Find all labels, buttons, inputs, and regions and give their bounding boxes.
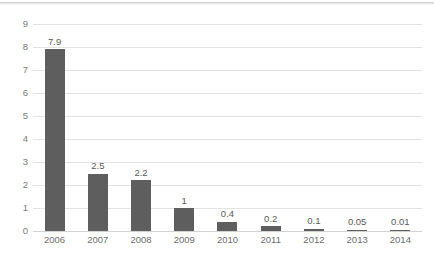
bar-value-label: 0.05: [335, 217, 379, 227]
bar[interactable]: [347, 230, 367, 231]
y-tick-label: 8: [6, 42, 28, 52]
y-tick-label: 6: [6, 88, 28, 98]
bar-value-label: 2.5: [76, 161, 120, 171]
bar-value-label: 7.9: [33, 37, 77, 47]
bar-group: 0.4: [206, 24, 249, 231]
y-tick-label: 2: [6, 180, 28, 190]
bar[interactable]: [131, 180, 151, 231]
bar-value-label: 2.2: [119, 168, 163, 178]
y-tick-label: 7: [6, 65, 28, 75]
bar-group: 7.9: [33, 24, 76, 231]
scan-edge-artifact: [0, 2, 434, 5]
x-tick-label: 2012: [292, 234, 335, 245]
bar[interactable]: [174, 208, 194, 231]
bar-value-label: 0.4: [205, 209, 249, 219]
gridline: [33, 231, 422, 232]
x-tick-label: 2007: [76, 234, 119, 245]
x-tick-label: 2013: [336, 234, 379, 245]
x-tick-label: 2009: [163, 234, 206, 245]
x-axis: 200620072008200920102011201220132014: [33, 234, 422, 250]
y-tick-label: 9: [6, 19, 28, 29]
bar-value-label: 1: [162, 196, 206, 206]
y-tick-label: 4: [6, 134, 28, 144]
y-tick-label: 0: [6, 226, 28, 236]
bar[interactable]: [88, 174, 108, 232]
x-tick-label: 2011: [249, 234, 292, 245]
bar[interactable]: [217, 222, 237, 231]
x-tick-label: 2014: [379, 234, 422, 245]
bar-group: 0.05: [336, 24, 379, 231]
y-tick-label: 1: [6, 203, 28, 213]
x-tick-label: 2006: [33, 234, 76, 245]
bar-group: 0.01: [379, 24, 422, 231]
bar-group: 1: [163, 24, 206, 231]
x-tick-label: 2010: [206, 234, 249, 245]
bar-group: 2.5: [76, 24, 119, 231]
bar[interactable]: [45, 49, 65, 231]
bar-value-label: 0.2: [249, 214, 293, 224]
bar-value-label: 0.01: [378, 217, 422, 227]
plot-area: 7.92.52.210.40.20.10.050.01: [33, 24, 422, 231]
bar-group: 0.2: [249, 24, 292, 231]
bar[interactable]: [304, 229, 324, 231]
bar[interactable]: [390, 230, 410, 231]
bar-chart-figure: 0123456789 7.92.52.210.40.20.10.050.01 2…: [0, 0, 434, 259]
x-tick-label: 2008: [119, 234, 162, 245]
y-axis: 0123456789: [0, 24, 28, 231]
bar-group: 2.2: [119, 24, 162, 231]
bar-group: 0.1: [292, 24, 335, 231]
bar-value-label: 0.1: [292, 216, 336, 226]
bar[interactable]: [261, 226, 281, 231]
y-tick-label: 5: [6, 111, 28, 121]
y-tick-label: 3: [6, 157, 28, 167]
